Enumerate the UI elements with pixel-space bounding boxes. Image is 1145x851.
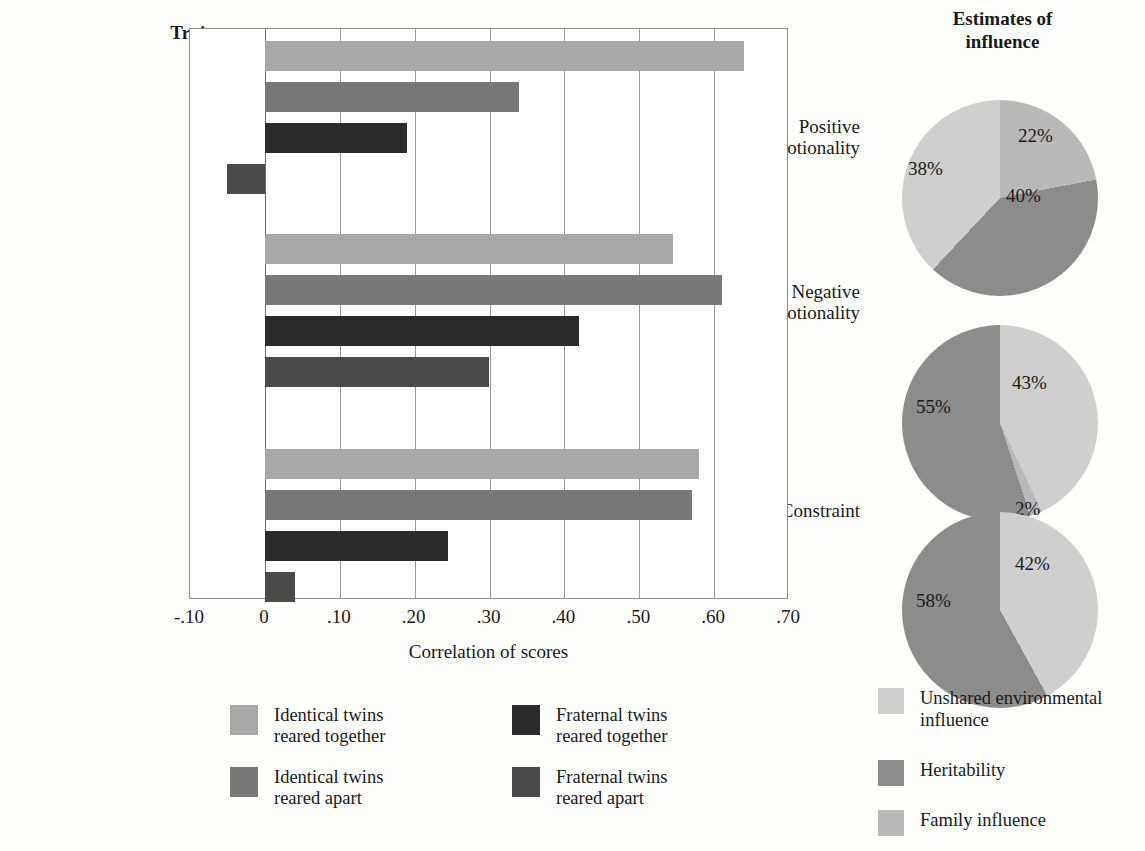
pie3-label-unshared: 42% [1015, 553, 1050, 575]
plot-area [189, 28, 788, 599]
bar-constraint-series2 [265, 490, 692, 520]
x-tick-label: -.10 [174, 606, 204, 628]
bar-negative-emotionality-series1 [265, 234, 673, 264]
bar-constraint-series4 [265, 572, 295, 602]
x-tick-label: .30 [477, 606, 501, 628]
pie1-label-family: 22% [1018, 125, 1053, 147]
bar-constraint-series3 [265, 531, 448, 561]
legend-swatch [512, 705, 540, 735]
pie2-label-unshared: 43% [1012, 372, 1047, 394]
x-tick-label: .60 [701, 606, 725, 628]
bar-negative-emotionality-series4 [265, 357, 490, 387]
pie3-label-heritability: 58% [916, 590, 951, 612]
bar-negative-emotionality-series2 [265, 275, 722, 305]
pie-legend-swatch [878, 760, 904, 786]
bar-positive-emotionality-series2 [265, 82, 520, 112]
legend-swatch [230, 767, 258, 797]
pie-chart-negative-emotionality [902, 325, 1098, 521]
legend-item: Identical twins reared together [230, 705, 385, 748]
legend-swatch [230, 705, 258, 735]
legend-label: Fraternal twins reared together [556, 705, 668, 748]
x-tick-label: .70 [776, 606, 800, 628]
pie-panel-title-line2: influence [860, 31, 1145, 54]
x-tick-label: .50 [626, 606, 650, 628]
pie2-label-heritability: 55% [916, 396, 951, 418]
pie-legend-label: Unshared environmental influence [920, 688, 1102, 732]
pie-legend-item: Heritability [878, 760, 1005, 786]
pie-panel-title-line1: Estimates of [860, 8, 1145, 31]
x-axis-title: Correlation of scores [189, 641, 788, 663]
pie-chart-positive-emotionality [902, 100, 1098, 296]
legend-item: Fraternal twins reared together [512, 705, 668, 748]
bar-positive-emotionality-series3 [265, 123, 407, 153]
bar-chart-panel: Trait Positive emotionality Negative emo… [0, 0, 860, 851]
legend-label: Identical twins reared apart [274, 767, 383, 810]
pie-legend-item: Unshared environmental influence [878, 688, 1102, 732]
pie-chart-panel: Estimates of influence 22% 40% 38% 43% 5… [860, 0, 1145, 851]
bar-constraint-series1 [265, 449, 699, 479]
bar-negative-emotionality-series3 [265, 316, 580, 346]
legend-item: Identical twins reared apart [230, 767, 383, 810]
gridline [714, 29, 715, 598]
pie-legend-item: Family influence [878, 810, 1046, 836]
bar-positive-emotionality-series1 [265, 41, 744, 71]
pie1-label-unshared: 38% [908, 158, 943, 180]
pie-legend-swatch [878, 810, 904, 836]
legend-swatch [512, 767, 540, 797]
x-tick-label: 0 [259, 606, 269, 628]
legend-label: Identical twins reared together [274, 705, 385, 748]
figure-root: Trait Positive emotionality Negative emo… [0, 0, 1145, 851]
x-tick-label: .40 [552, 606, 576, 628]
x-tick-label: .10 [327, 606, 351, 628]
pie-legend-swatch [878, 688, 904, 714]
pie-legend-label: Heritability [920, 760, 1005, 782]
pie-legend-label: Family influence [920, 810, 1046, 832]
pie-panel-title: Estimates of influence [860, 8, 1145, 54]
legend-label: Fraternal twins reared apart [556, 767, 668, 810]
pie1-label-heritability: 40% [1006, 185, 1041, 207]
legend-item: Fraternal twins reared apart [512, 767, 668, 810]
bar-positive-emotionality-series4 [227, 164, 264, 194]
x-tick-label: .20 [402, 606, 426, 628]
